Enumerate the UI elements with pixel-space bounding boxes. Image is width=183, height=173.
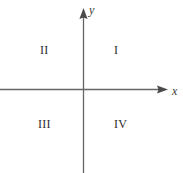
x-axis-arrowhead [157,85,168,93]
quadrant-label-ii: II [40,44,48,56]
y-axis-arrowhead [79,8,87,19]
quadrant-label-iv: IV [114,118,127,130]
axes-graphic [0,0,183,173]
y-axis-label: y [89,4,94,16]
coordinate-plane-diagram: y x I II III IV [0,0,183,173]
x-axis-label: x [172,85,177,97]
quadrant-label-i: I [114,44,118,56]
quadrant-label-iii: III [38,118,51,130]
